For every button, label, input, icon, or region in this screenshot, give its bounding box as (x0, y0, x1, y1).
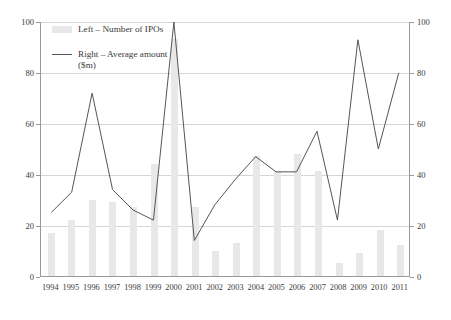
right-axis-tick-label-100: 100 (417, 18, 443, 27)
right-axis-tick-100 (410, 22, 414, 23)
x-axis-label-2011: 2011 (389, 284, 410, 292)
x-axis-label-2009: 2009 (348, 284, 369, 292)
right-axis-tick-label-0: 0 (417, 273, 443, 282)
x-axis-label-2008: 2008 (328, 284, 349, 292)
legend-label-line: Right – Average amount ($m) (78, 49, 167, 72)
legend-item-bars: Left – Number of IPOs (52, 24, 237, 36)
left-axis-tick-100 (36, 22, 40, 23)
x-axis-label-1999: 1999 (143, 284, 164, 292)
x-axis-label-1994: 1994 (40, 284, 61, 292)
left-axis-tick-40 (36, 175, 40, 176)
x-axis-label-2002: 2002 (204, 284, 225, 292)
legend-label-bars: Left – Number of IPOs (78, 24, 163, 36)
right-axis-tick-0 (410, 277, 414, 278)
right-axis-tick-label-60: 60 (417, 120, 443, 129)
left-axis-tick-label-0: 0 (8, 273, 34, 282)
right-axis-tick-60 (410, 124, 414, 125)
right-axis-tick-20 (410, 226, 414, 227)
left-axis-tick-80 (36, 73, 40, 74)
left-axis-tick-label-20: 20 (8, 222, 34, 231)
right-axis-tick-label-40: 40 (417, 171, 443, 180)
left-axis-tick-label-40: 40 (8, 171, 34, 180)
x-axis-label-1998: 1998 (122, 284, 143, 292)
left-axis-tick-20 (36, 226, 40, 227)
x-axis-label-2003: 2003 (225, 284, 246, 292)
right-axis-tick-label-80: 80 (417, 69, 443, 78)
x-axis-label-2010: 2010 (369, 284, 390, 292)
legend-item-line: Right – Average amount ($m) (52, 49, 237, 72)
bar-swatch-icon (52, 26, 72, 33)
right-axis-tick-40 (410, 175, 414, 176)
left-axis-tick-0 (36, 277, 40, 278)
x-axis-label-1996: 1996 (81, 284, 102, 292)
x-axis-label-2004: 2004 (246, 284, 267, 292)
right-axis-tick-label-20: 20 (417, 222, 443, 231)
x-axis-labels: 1994199519961997199819992000200120022003… (40, 282, 410, 298)
x-axis-label-1997: 1997 (102, 284, 123, 292)
x-axis-label-2006: 2006 (287, 284, 308, 292)
line-swatch-icon (52, 54, 72, 55)
x-axis-label-2001: 2001 (184, 284, 205, 292)
x-axis-label-2000: 2000 (163, 284, 184, 292)
right-axis-tick-80 (410, 73, 414, 74)
x-axis-label-2007: 2007 (307, 284, 328, 292)
left-axis-tick-label-80: 80 (8, 69, 34, 78)
left-axis-tick-label-60: 60 (8, 120, 34, 129)
x-axis-label-1995: 1995 (61, 284, 82, 292)
chart-legend: Left – Number of IPOs Right – Average am… (52, 24, 237, 85)
x-axis-label-2005: 2005 (266, 284, 287, 292)
left-axis-tick-label-100: 100 (8, 18, 34, 27)
left-axis-tick-60 (36, 124, 40, 125)
chart-root: 020406080100 020406080100 19941995199619… (0, 0, 451, 320)
